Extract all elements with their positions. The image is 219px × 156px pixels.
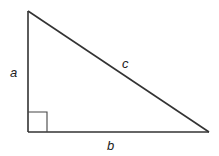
right-angle-marker-icon [28, 112, 47, 132]
side-c-hypotenuse-line [28, 11, 209, 132]
right-triangle-diagram: a c b [0, 0, 219, 156]
side-c-label: c [122, 56, 129, 71]
triangle-canvas: a c b [0, 0, 219, 156]
side-b-label: b [107, 138, 114, 153]
side-a-label: a [10, 65, 17, 80]
